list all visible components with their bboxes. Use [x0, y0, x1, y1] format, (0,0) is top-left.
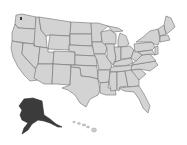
contiguous-us: [11, 14, 175, 113]
state-hawaii[interactable]: [73, 121, 97, 132]
state-south-dakota[interactable]: [70, 34, 92, 46]
state-montana[interactable]: [39, 17, 71, 36]
state-new-mexico[interactable]: [52, 64, 71, 85]
us-map: [0, 0, 187, 145]
state-michigan[interactable]: [118, 33, 129, 47]
state-maine[interactable]: [164, 16, 175, 34]
state-washington[interactable]: [15, 14, 36, 29]
state-massachusetts-ct-ri[interactable]: [160, 35, 170, 42]
state-kansas[interactable]: [75, 55, 97, 66]
state-arizona[interactable]: [34, 64, 53, 84]
us-map-svg: [0, 0, 187, 145]
state-wyoming[interactable]: [48, 35, 70, 50]
state-utah[interactable]: [38, 47, 54, 64]
state-arkansas[interactable]: [98, 70, 110, 83]
state-mississippi[interactable]: [109, 72, 117, 91]
state-new-jersey[interactable]: [155, 46, 158, 55]
state-florida[interactable]: [119, 86, 150, 113]
state-alaska[interactable]: [19, 98, 62, 134]
state-north-dakota[interactable]: [70, 22, 92, 34]
location-marker: [20, 17, 22, 20]
state-colorado[interactable]: [53, 51, 75, 65]
